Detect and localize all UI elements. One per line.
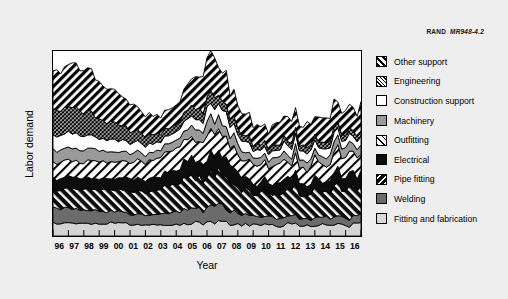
x-tick-label: 99	[96, 240, 111, 253]
source-org: RAND	[426, 28, 446, 35]
x-tick-label: 05	[185, 240, 200, 253]
x-tick-label: 01	[126, 240, 141, 253]
x-axis-tick-marks	[53, 230, 361, 236]
legend-item-label: Machinery	[394, 116, 434, 126]
x-axis-title: Year	[52, 259, 362, 271]
legend-swatch-icon	[376, 135, 387, 146]
x-tick-label: 98	[82, 240, 97, 253]
x-tick-label: 96	[52, 240, 67, 253]
chart-card: RANDMR948-4.2 Labor demand	[14, 12, 494, 287]
x-tick-label: 10	[259, 240, 274, 253]
y-axis-title: Labor demand	[20, 50, 38, 237]
legend-swatch-icon	[376, 213, 387, 224]
x-tick-label: 02	[141, 240, 156, 253]
legend-item-label: Pipe fitting	[394, 174, 435, 184]
x-tick-label: 03	[155, 240, 170, 253]
x-tick-label: 15	[333, 240, 348, 253]
legend-item-label: Engineering	[394, 76, 440, 86]
source-code: MR948-4.2	[450, 28, 484, 35]
legend-swatch-icon	[376, 174, 387, 185]
plot-area	[52, 50, 362, 237]
legend-swatch-icon	[376, 95, 387, 106]
legend-item-label: Other support	[394, 57, 447, 67]
x-tick-label: 08	[229, 240, 244, 253]
x-tick-label: 12	[288, 240, 303, 253]
legend-item[interactable]: Construction support	[376, 91, 508, 111]
x-tick-label: 16	[347, 240, 362, 253]
legend-item[interactable]: Other support	[376, 52, 508, 72]
legend-item[interactable]: Machinery	[376, 111, 508, 131]
legend-item[interactable]: Electrical	[376, 150, 508, 170]
legend-swatch-icon	[376, 154, 387, 165]
chart-legend: Other supportEngineeringConstruction sup…	[376, 52, 508, 228]
legend-swatch-icon	[376, 56, 387, 67]
x-axis-tick-labels: 9697989900010203040506070809101112131415…	[52, 240, 362, 253]
source-tag: RANDMR948-4.2	[426, 28, 484, 35]
legend-item-label: Welding	[394, 194, 425, 204]
legend-swatch-icon	[376, 193, 387, 204]
x-tick-label: 97	[67, 240, 82, 253]
y-axis-title-text: Labor demand	[23, 110, 35, 178]
figure-canvas: RANDMR948-4.2 Labor demand	[0, 0, 508, 299]
x-tick-label: 14	[318, 240, 333, 253]
x-tick-label: 04	[170, 240, 185, 253]
x-tick-label: 13	[303, 240, 318, 253]
legend-item-label: Fitting and fabrication	[394, 214, 477, 224]
x-tick-label: 11	[273, 240, 288, 253]
x-tick-label: 06	[200, 240, 215, 253]
legend-item-label: Electrical	[394, 155, 429, 165]
legend-swatch-icon	[376, 76, 387, 87]
x-tick-label: 09	[244, 240, 259, 253]
legend-item-label: Construction support	[394, 96, 474, 106]
legend-item[interactable]: Outfitting	[376, 130, 508, 150]
x-axis-title-text: Year	[196, 259, 217, 271]
legend-item-label: Outfitting	[394, 135, 429, 145]
stacked-area-chart	[53, 51, 361, 236]
x-tick-label: 00	[111, 240, 126, 253]
legend-swatch-icon	[376, 115, 387, 126]
plot-frame	[52, 50, 362, 237]
legend-item[interactable]: Engineering	[376, 72, 508, 92]
legend-item[interactable]: Welding	[376, 189, 508, 209]
legend-item[interactable]: Pipe fitting	[376, 170, 508, 190]
legend-item[interactable]: Fitting and fabrication	[376, 209, 508, 229]
x-tick-label: 07	[214, 240, 229, 253]
